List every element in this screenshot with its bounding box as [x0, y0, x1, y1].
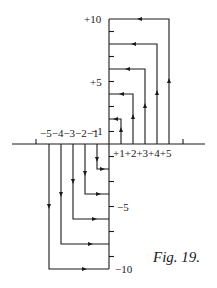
path-minus-3 [73, 144, 109, 219]
mapping-diagram: +10 +5 −1 −5 −10 −5−4−3−2−1 +1+2+3+4+5 F… [0, 0, 217, 288]
y-label-plus-10: +10 [84, 13, 102, 25]
path-minus-5 [49, 144, 109, 269]
x-labels-positive: +1+2+3+4+5 [113, 147, 172, 159]
x-labels-negative: −5−4−3−2−1 [40, 127, 99, 139]
path-minus-1 [97, 144, 109, 169]
y-label-minus-5: −5 [117, 201, 129, 213]
path-plus-5 [109, 19, 169, 144]
figure-caption: Fig. 19. [152, 249, 200, 265]
negative-paths [47, 144, 109, 271]
y-label-plus-5: +5 [90, 76, 102, 88]
positive-paths [109, 17, 171, 144]
y-label-minus-10: −10 [115, 263, 133, 275]
path-plus-3 [109, 69, 145, 144]
